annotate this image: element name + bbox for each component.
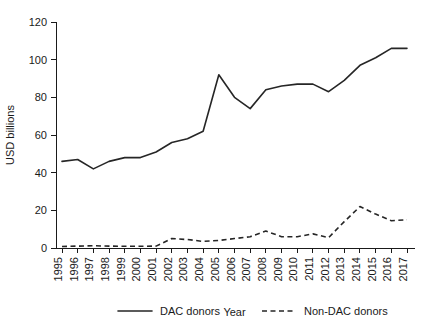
- legend-label-1: DAC donors: [160, 305, 220, 317]
- x-tick-label: 1999: [115, 257, 127, 281]
- y-axis: 020406080100120: [29, 16, 56, 254]
- x-tick-label: 2008: [256, 257, 268, 281]
- x-tick-label: 2006: [225, 257, 237, 281]
- x-tick-label: 1998: [99, 257, 111, 281]
- x-tick-label: 2004: [193, 257, 205, 281]
- x-tick-label: 2014: [350, 257, 362, 281]
- x-axis-title: Year: [223, 306, 246, 318]
- chart-legend: DAC donorsNon-DAC donors: [118, 305, 388, 317]
- x-tick-label: 1995: [52, 257, 64, 281]
- x-tick-label: 2007: [240, 257, 252, 281]
- x-tick-label: 2001: [146, 257, 158, 281]
- y-tick-label: 60: [35, 129, 47, 141]
- x-tick-label: 2005: [209, 257, 221, 281]
- series-line-1: [62, 48, 407, 169]
- x-tick-label: 2015: [366, 257, 378, 281]
- chart-container: 020406080100120 199519961997199819992000…: [0, 0, 422, 335]
- x-axis: 1995199619971998199920002001200220032004…: [52, 248, 415, 281]
- x-tick-label: 2002: [162, 257, 174, 281]
- x-tick-label: 2013: [334, 257, 346, 281]
- y-tick-label: 40: [35, 167, 47, 179]
- y-tick-label: 20: [35, 204, 47, 216]
- y-tick-label: 0: [41, 242, 47, 254]
- x-tick-label: 1997: [83, 257, 95, 281]
- line-chart: 020406080100120 199519961997199819992000…: [0, 0, 422, 335]
- x-tick-label: 2009: [272, 257, 284, 281]
- y-axis-title: USD billions: [4, 105, 16, 165]
- series-layer: [62, 48, 407, 246]
- x-tick-label: 2003: [177, 257, 189, 281]
- legend-label-2: Non-DAC donors: [304, 305, 388, 317]
- y-tick-label: 120: [29, 16, 47, 28]
- x-tick-label: 2000: [130, 257, 142, 281]
- x-tick-label: 2011: [303, 257, 315, 281]
- x-tick-label: 2016: [381, 257, 393, 281]
- y-tick-label: 100: [29, 54, 47, 66]
- x-tick-label: 2010: [287, 257, 299, 281]
- x-tick-label: 1996: [68, 257, 80, 281]
- y-tick-label: 80: [35, 91, 47, 103]
- x-tick-label: 2017: [397, 257, 409, 281]
- series-line-2: [62, 207, 407, 247]
- x-tick-label: 2012: [319, 257, 331, 281]
